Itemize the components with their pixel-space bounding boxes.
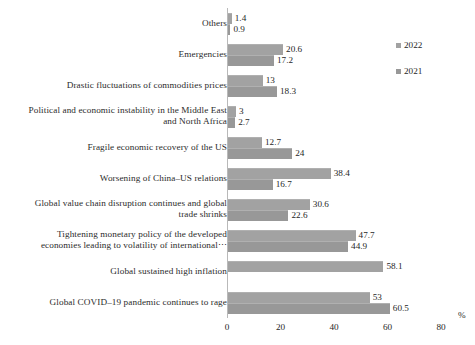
legend-swatch-icon [396,43,401,48]
bar-value-label: 20.6 [283,44,302,54]
legend-label: 2021 [404,66,422,76]
x-tick-label: 60 [383,322,392,332]
bar-value-label: 60.5 [390,303,409,313]
category-label-2: Drastic fluctuations of commodities pric… [0,80,227,92]
bar-2022-5[interactable] [228,168,331,180]
bar-2021-3[interactable] [228,117,235,129]
bar-chart: 1.40.920.617.21318.332.712.72438.416.730… [0,0,475,345]
bar-value-label: 0.9 [230,24,244,34]
category-label-8: Global sustained high inflation [0,266,227,278]
bar-2022-1[interactable] [228,44,283,56]
bar-2021-5[interactable] [228,179,273,191]
bar-value-label: 3 [236,106,244,116]
bar-value-label: 58.1 [383,261,402,271]
bar-value-label: 44.9 [348,241,367,251]
legend-label: 2022 [404,40,422,50]
bar-2021-2[interactable] [228,86,277,98]
category-label-9: Global COVID–19 pandemic continues to ra… [0,297,227,309]
category-label-6: Global value chain disruption continues … [0,198,227,221]
legend-item-2022[interactable]: 2022 [396,40,422,50]
bar-2022-7[interactable] [228,230,356,242]
bar-value-label: 53 [370,292,382,302]
legend: 2022 2021 [396,40,422,92]
x-tick-label: 80 [436,322,445,332]
bar-value-label: 30.6 [310,199,329,209]
bar-value-label: 38.4 [331,168,350,178]
x-tick-label: 40 [329,322,338,332]
bar-2021-7[interactable] [228,241,348,253]
legend-swatch-icon [396,69,401,74]
bar-2022-3[interactable] [228,106,236,118]
bar-value-label: 17.2 [274,55,293,65]
category-label-3: Political and economic instability in th… [0,105,227,128]
bar-value-label: 1.4 [232,13,246,23]
bar-2021-1[interactable] [228,55,274,67]
bar-value-label: 47.7 [356,230,375,240]
bar-2021-9[interactable] [228,303,390,315]
x-tick-label: 0 [225,322,230,332]
category-label-5: Worsening of China–US relations [0,173,227,185]
bar-value-label: 22.6 [288,210,307,220]
bar-2021-4[interactable] [228,148,292,160]
bar-2021-6[interactable] [228,210,288,222]
bar-value-label: 12.7 [262,137,281,147]
bar-value-label: 24 [292,148,304,158]
x-tick-label: 20 [276,322,285,332]
category-label-4: Fragile economic recovery of the US [0,142,227,154]
category-label-0: Others [0,18,227,30]
bar-2022-2[interactable] [228,75,263,87]
bar-value-label: 13 [263,75,275,85]
bar-2022-9[interactable] [228,292,370,304]
bar-2022-4[interactable] [228,137,262,149]
category-label-1: Emergencies [0,49,227,61]
bar-2022-6[interactable] [228,199,310,211]
legend-item-2021[interactable]: 2021 [396,66,422,76]
bar-value-label: 16.7 [273,179,292,189]
bar-value-label: 2.7 [235,117,249,127]
axis-unit-label: % [458,310,466,320]
category-label-7: Tightening monetary policy of the develo… [0,229,227,252]
bar-value-label: 18.3 [277,86,296,96]
bar-2022-8[interactable] [228,261,383,273]
